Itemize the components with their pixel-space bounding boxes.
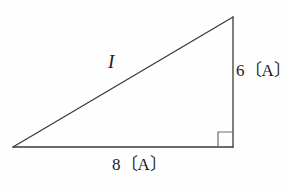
- right-angle-marker-icon: [218, 132, 233, 147]
- triangle-figure: I 6〔A〕 8〔A〕: [0, 0, 285, 190]
- hypotenuse-line: [13, 17, 233, 147]
- vertical-side-label: 6〔A〕: [236, 62, 285, 79]
- hypotenuse-label: I: [108, 52, 115, 71]
- horizontal-side-label: 8〔A〕: [112, 156, 167, 173]
